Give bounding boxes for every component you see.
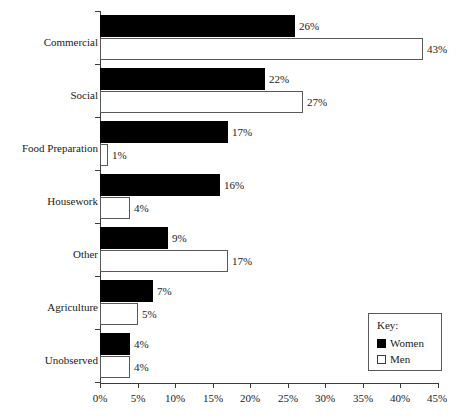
y-axis-tick xyxy=(95,117,100,118)
bar-men-commercial xyxy=(100,38,423,60)
bar-value-men-agriculture: 5% xyxy=(142,308,157,320)
x-axis-tick xyxy=(363,383,364,388)
bar-value-women-other: 9% xyxy=(172,232,187,244)
x-axis-tick-label-35: 35% xyxy=(353,392,373,404)
filled-square-icon xyxy=(377,339,386,348)
x-axis-tick-label-15: 15% xyxy=(203,392,223,404)
x-axis-tick xyxy=(288,383,289,388)
bar-value-women-social: 22% xyxy=(269,73,289,85)
x-axis-tick xyxy=(138,383,139,388)
legend-entry-men: Men xyxy=(377,353,410,365)
bar-women-unobserved xyxy=(100,333,130,355)
x-axis-tick-label-10: 10% xyxy=(165,392,185,404)
x-axis-tick xyxy=(213,383,214,388)
bar-men-housework xyxy=(100,197,130,219)
category-label-housework: Housework xyxy=(47,195,98,207)
bar-men-unobserved xyxy=(100,356,130,378)
x-axis-tick xyxy=(100,383,101,388)
bar-chart: Commercial Social Food Preparation House… xyxy=(0,0,456,417)
x-axis-tick-label-20: 20% xyxy=(240,392,260,404)
category-label-other: Other xyxy=(73,248,98,260)
bar-women-commercial xyxy=(100,15,295,37)
x-axis-tick xyxy=(250,383,251,388)
y-axis-tick xyxy=(95,276,100,277)
bar-men-other xyxy=(100,250,228,272)
bar-value-men-housework: 4% xyxy=(134,202,149,214)
x-axis-tick-label-5: 5% xyxy=(131,392,146,404)
x-axis-tick-label-45: 45% xyxy=(427,392,447,404)
bar-men-agriculture xyxy=(100,303,138,325)
x-axis-tick xyxy=(438,383,439,388)
bar-value-women-unobserved: 4% xyxy=(134,338,149,350)
x-axis-tick xyxy=(175,383,176,388)
bar-men-food-preparation xyxy=(100,144,108,166)
x-axis-tick-label-40: 40% xyxy=(390,392,410,404)
x-axis-tick-label-25: 25% xyxy=(278,392,298,404)
x-axis-tick-label-0: 0% xyxy=(93,392,108,404)
bar-men-social xyxy=(100,91,303,113)
bar-value-women-agriculture: 7% xyxy=(157,285,172,297)
category-label-social: Social xyxy=(71,89,99,101)
x-axis-tick xyxy=(400,383,401,388)
bar-value-men-social: 27% xyxy=(307,96,327,108)
bar-women-other xyxy=(100,227,168,249)
bar-value-women-housework: 16% xyxy=(224,179,244,191)
bar-value-women-food-preparation: 17% xyxy=(232,126,252,138)
chart-legend: Key: Women Men xyxy=(368,313,442,371)
legend-entry-women: Women xyxy=(377,337,424,349)
y-axis-tick xyxy=(95,329,100,330)
bar-value-men-commercial: 43% xyxy=(427,43,447,55)
category-label-food-preparation: Food Preparation xyxy=(22,142,98,154)
category-label-agriculture: Agriculture xyxy=(47,301,98,313)
bar-women-agriculture xyxy=(100,280,153,302)
x-axis-tick xyxy=(325,383,326,388)
bar-value-men-food-preparation: 1% xyxy=(112,149,127,161)
category-label-unobserved: Unobserved xyxy=(45,354,98,366)
y-axis-tick xyxy=(95,170,100,171)
x-axis-tick-label-30: 30% xyxy=(315,392,335,404)
bar-women-housework xyxy=(100,174,220,196)
legend-label-women: Women xyxy=(390,337,424,349)
bar-value-men-other: 17% xyxy=(232,255,252,267)
y-axis-tick xyxy=(95,223,100,224)
legend-label-men: Men xyxy=(390,353,410,365)
y-axis-tick xyxy=(95,64,100,65)
y-axis-tick xyxy=(95,11,100,12)
x-axis-line xyxy=(100,383,438,384)
bar-women-social xyxy=(100,68,265,90)
bar-women-food-preparation xyxy=(100,121,228,143)
legend-title: Key: xyxy=(377,319,398,331)
category-label-commercial: Commercial xyxy=(44,36,98,48)
bar-value-men-unobserved: 4% xyxy=(134,361,149,373)
bar-value-women-commercial: 26% xyxy=(299,20,319,32)
hollow-square-icon xyxy=(377,355,386,364)
